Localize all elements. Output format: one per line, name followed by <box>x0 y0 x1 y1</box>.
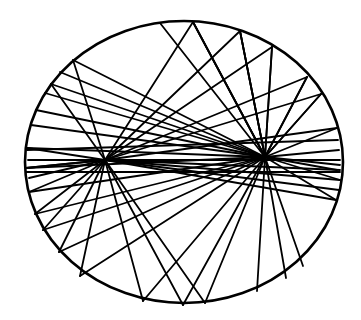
chord-line <box>265 47 272 157</box>
chord-line <box>73 60 105 160</box>
chord-line <box>45 93 265 157</box>
chord-line <box>80 157 265 276</box>
chord-line <box>105 160 143 301</box>
chord-line <box>240 31 265 157</box>
chord-line <box>265 150 339 157</box>
ellipse-reflection-diagram <box>0 0 361 320</box>
chord-line <box>160 23 265 157</box>
chord-line <box>105 160 183 305</box>
chord-line <box>257 157 265 291</box>
